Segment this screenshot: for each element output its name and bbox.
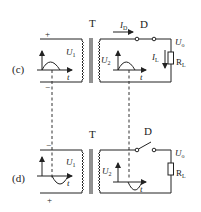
diode-terminal-left — [135, 148, 139, 152]
primary-voltage-label: U1 — [66, 47, 76, 58]
diode-label: D — [144, 125, 152, 137]
polarity-bottom: + — [47, 195, 52, 205]
primary-voltage-label: U1 — [66, 157, 76, 168]
svg-text:t: t — [67, 178, 70, 188]
output-voltage-label: Uo — [175, 148, 185, 159]
polarity-bottom: − — [45, 82, 50, 92]
transformer-label: T — [89, 17, 96, 29]
secondary-coil-icon — [99, 150, 101, 193]
panel-d: (d) T D − + U1 U2 Uo RL t t — [12, 125, 186, 205]
load-resistor-icon — [168, 52, 174, 64]
diode-terminal-right — [152, 148, 156, 152]
panel-label: (d) — [12, 172, 25, 185]
panel-label: (c) — [12, 63, 25, 76]
secondary-waveform-d: t — [113, 163, 146, 194]
output-voltage-label: Uo — [175, 37, 185, 48]
svg-text:t: t — [140, 72, 143, 82]
secondary-coil-icon — [99, 39, 101, 82]
diode-current-label: ID — [119, 20, 128, 31]
load-current-label: IL — [151, 52, 159, 63]
panel-c: (c) T + − U1 U2 ID D Uo RL — [12, 17, 186, 92]
load-resistor-label: RL — [176, 168, 186, 179]
load-resistor-icon — [168, 163, 174, 175]
diode-switch-open — [139, 142, 152, 149]
load-resistor-label: RL — [176, 57, 186, 68]
secondary-voltage-label: U2 — [102, 166, 112, 177]
rectifier-diagram: (c) T + − U1 U2 ID D Uo RL — [0, 0, 201, 212]
polarity-top: − — [46, 140, 51, 150]
diode-label: D — [140, 18, 148, 30]
primary-coil-icon — [82, 39, 84, 82]
diode-terminal-right — [152, 37, 156, 41]
secondary-voltage-label: U2 — [101, 55, 111, 66]
diode-terminal-left — [135, 37, 139, 41]
polarity-top: + — [45, 29, 50, 39]
svg-text:t: t — [67, 72, 70, 82]
primary-coil-icon — [82, 150, 84, 193]
transformer-label: T — [89, 128, 96, 140]
